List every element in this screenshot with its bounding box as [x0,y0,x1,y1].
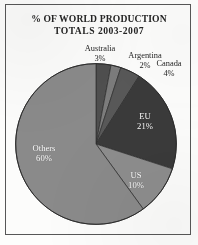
pie-label-australia-value: 3% [78,54,122,64]
pie-label-canada-value: 4% [148,69,190,79]
pie-label-us-value: 10% [120,180,152,190]
chart-title: % OF WORLD PRODUCTION TOTALS 2003-2007 [0,13,198,36]
pie-chart: Australia 3% Argentina 2% Canada 4% EU 2… [0,0,198,245]
pie-label-eu: EU 21% [128,111,162,131]
pie-label-australia: Australia 3% [78,44,122,64]
pie-label-australia-name: Australia [78,44,122,54]
chart-page: % OF WORLD PRODUCTION TOTALS 2003-2007 A… [0,0,198,245]
pie-label-eu-value: 21% [128,121,162,131]
pie-label-canada-name: Canada [148,59,190,69]
chart-title-line-1: % OF WORLD PRODUCTION [31,13,167,24]
chart-title-line-2: TOTALS 2003-2007 [54,25,144,36]
pie-label-us: US 10% [120,170,152,190]
pie-label-canada: Canada 4% [148,59,190,79]
pie-label-eu-name: EU [128,111,162,121]
pie-label-others-name: Others [22,143,66,153]
pie-label-others: Others 60% [22,143,66,163]
pie-label-us-name: US [120,170,152,180]
pie-label-others-value: 60% [22,153,66,163]
